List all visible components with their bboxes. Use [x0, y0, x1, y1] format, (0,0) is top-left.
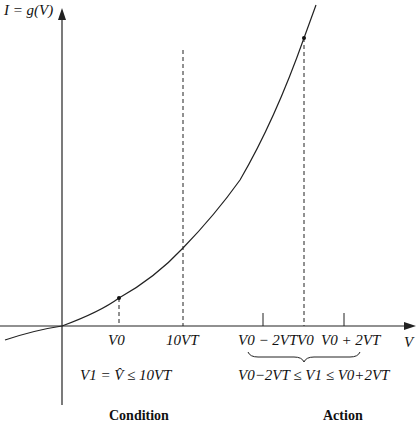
x-axis-arrow-icon [404, 322, 416, 330]
tick-label-v0-right: V0 [297, 332, 314, 349]
x-axis-label: V [404, 334, 413, 351]
action-formula: V0−2VT ≤ V1 ≤ V0+2VT [238, 367, 389, 384]
tick-label-v0-plus-2vt: V0 + 2VT [321, 332, 380, 349]
tick-label-v0-left: V0 [108, 332, 125, 349]
tick-label-v0-minus-2vt: V0 − 2VT [238, 332, 297, 349]
condition-label: Condition [109, 408, 169, 424]
y-axis-label: I = g(V) [4, 2, 53, 19]
y-axis-arrow-icon [58, 8, 66, 20]
diagram-canvas [0, 0, 420, 425]
exponential-curve [5, 5, 316, 340]
v0-right-point [302, 36, 306, 40]
action-label: Action [323, 408, 363, 424]
v0-left-point [117, 296, 121, 300]
tick-label-10vt: 10VT [166, 332, 199, 349]
condition-formula: V1 = V̂ ≤ 10VT [80, 367, 171, 384]
action-brace [248, 352, 360, 362]
